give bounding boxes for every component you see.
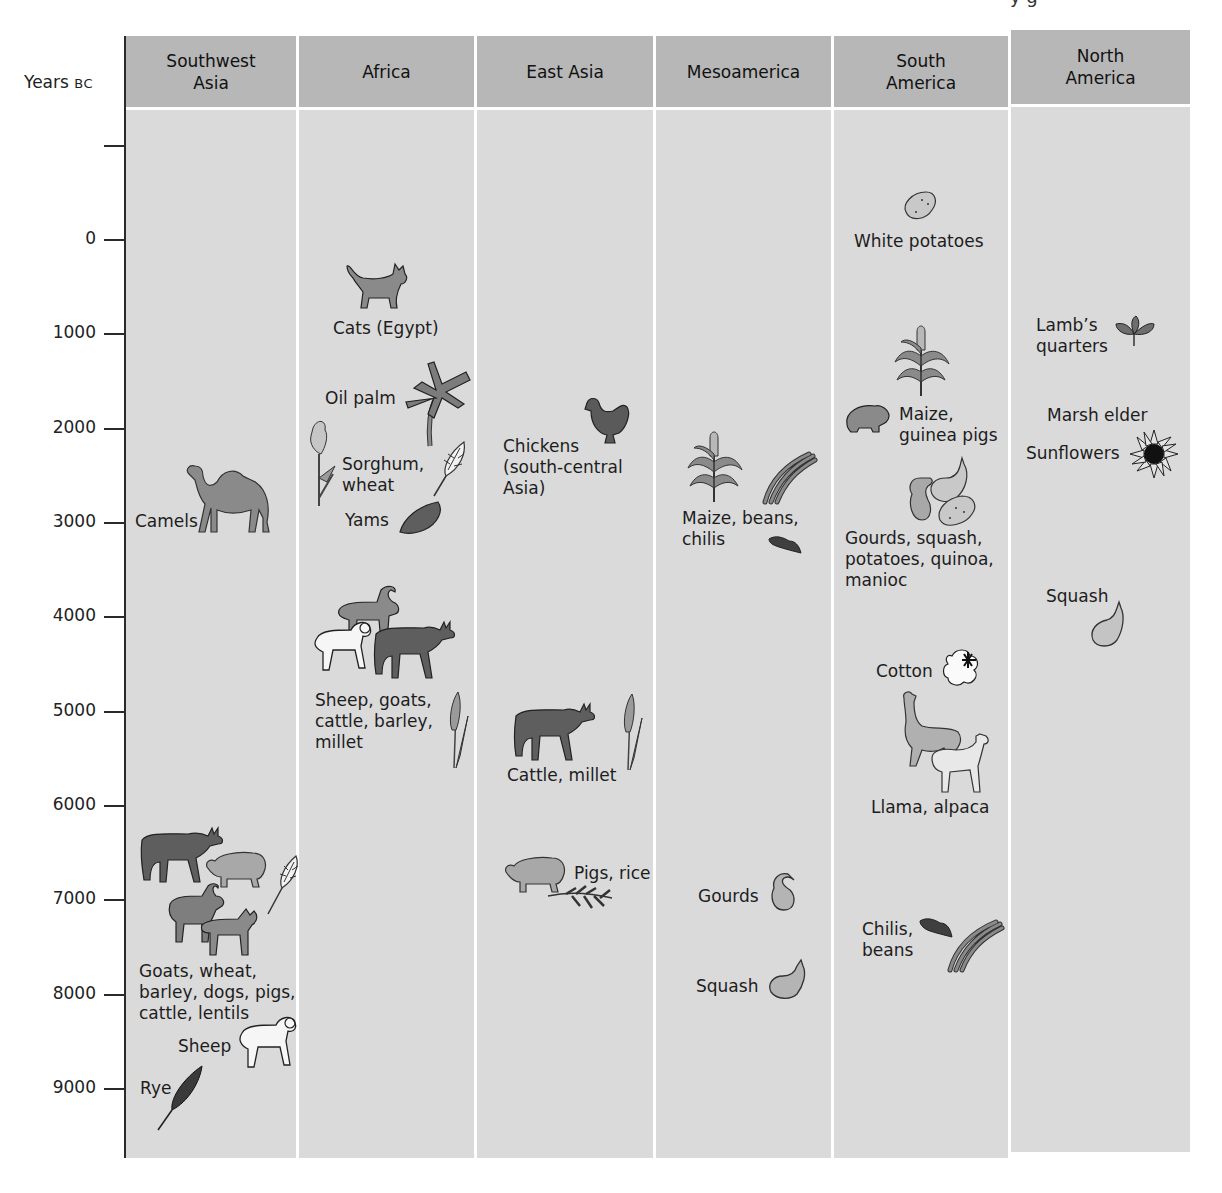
label-sunflowers: Sunflowers [1026, 443, 1120, 464]
gourd-icon [770, 870, 798, 914]
axis-tick-label: 9000 [0, 1077, 96, 1097]
axis-tick [104, 1088, 124, 1090]
label-cattle-millet: Cattle, millet [507, 765, 616, 786]
axis-tick-label: 0 [0, 228, 96, 248]
label-marsh-elder: Marsh elder [1047, 405, 1148, 426]
cattle-icon [512, 702, 598, 764]
label-cotton: Cotton [876, 661, 933, 682]
axis-tick [104, 522, 124, 524]
beans-icon [946, 918, 1004, 972]
axis-tick [104, 994, 124, 996]
squash-icon [767, 956, 809, 1002]
label-sheep-goats-group: Sheep, goats, cattle, barley, millet [315, 690, 433, 753]
column-header: East Asia [477, 36, 653, 107]
gourds-squash-potato-icon [906, 456, 982, 532]
yam-icon [398, 500, 444, 536]
guinea-pig-icon [845, 402, 891, 434]
label-oil-palm: Oil palm [325, 388, 396, 409]
label-squash: Squash [696, 976, 758, 997]
label-sheep: Sheep [178, 1036, 231, 1057]
column-body [477, 110, 653, 1158]
millet-icon [618, 692, 644, 772]
label-cats: Cats (Egypt) [333, 318, 439, 339]
axis-tick [104, 616, 124, 618]
potato-icon [902, 190, 938, 224]
cotton-icon [942, 648, 980, 688]
column-body [834, 110, 1008, 1158]
millet-icon [444, 690, 470, 770]
dog-icon [200, 905, 260, 959]
axis-tick-label: 8000 [0, 983, 96, 1003]
wheat-icon [266, 852, 302, 916]
maize-icon [684, 432, 746, 504]
label-pigs-rice: Pigs, rice [574, 863, 651, 884]
label-gourds: Gourds [698, 886, 759, 907]
sheep-icon [236, 1013, 300, 1073]
column-header: Africa [299, 36, 474, 107]
cattle-icon [372, 620, 458, 682]
axis-title-unit: BC [74, 76, 93, 91]
label-chilis-beans: Chilis, beans [862, 919, 913, 961]
column-east-asia: East Asia [477, 36, 653, 1157]
lambs-quarters-icon [1114, 316, 1156, 348]
label-lambs-quarters: Lamb’s quarters [1036, 315, 1108, 357]
axis-title-main: Years [24, 72, 74, 92]
axis-tick [104, 239, 124, 241]
axis-tick [104, 145, 124, 147]
alpaca-icon [930, 732, 992, 796]
axis-tick [104, 428, 124, 430]
cat-icon [345, 262, 411, 312]
column-header: South America [834, 36, 1008, 107]
axis-tick-label: 3000 [0, 511, 96, 531]
label-white-potatoes: White potatoes [854, 231, 984, 252]
maize-icon [890, 326, 954, 398]
chili-icon [767, 535, 803, 555]
axis-tick [104, 805, 124, 807]
beans-icon [761, 450, 817, 504]
oil-palm-icon [404, 358, 474, 448]
label-maize-guinea-pigs: Maize, guinea pigs [899, 404, 998, 446]
axis-tick-label: 2000 [0, 417, 96, 437]
clipped-caption: y g [1010, 0, 1038, 7]
sheep-icon [313, 618, 375, 674]
sunflower-icon [1128, 428, 1180, 480]
axis-tick-label: 1000 [0, 322, 96, 342]
wheat-icon [432, 440, 468, 498]
label-gourds-squash-potatoes: Gourds, squash, potatoes, quinoa, manioc [845, 528, 994, 591]
sorghum-icon [305, 418, 339, 508]
squash-icon [1089, 600, 1131, 650]
axis-tick-label: 6000 [0, 794, 96, 814]
axis-tick-label: 5000 [0, 700, 96, 720]
column-header: Mesoamerica [656, 36, 831, 107]
axis-tick-label: 4000 [0, 605, 96, 625]
axis-tick [104, 333, 124, 335]
axis-tick-label: 7000 [0, 888, 96, 908]
label-chickens: Chickens (south-central Asia) [503, 436, 623, 499]
label-sorghum-wheat: Sorghum, wheat [342, 454, 424, 496]
axis-title: Years BC [24, 72, 93, 92]
rice-icon [546, 884, 616, 914]
axis-tick [104, 711, 124, 713]
column-header: North America [1011, 30, 1190, 104]
label-rye: Rye [140, 1078, 171, 1099]
label-yams: Yams [345, 510, 389, 531]
label-camels: Camels [135, 511, 198, 532]
label-llama-alpaca: Llama, alpaca [871, 797, 990, 818]
axis-tick [104, 899, 124, 901]
column-header: Southwest Asia [126, 36, 296, 107]
